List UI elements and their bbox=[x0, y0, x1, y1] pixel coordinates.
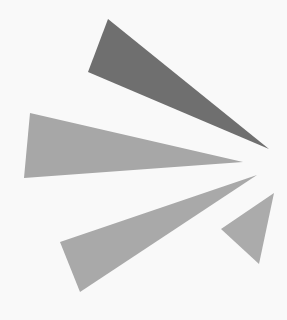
figure-canvas bbox=[0, 0, 287, 320]
light-triangle-small-right bbox=[221, 193, 274, 264]
dark-triangle-top bbox=[88, 19, 269, 149]
sunburst-triangles-graphic bbox=[0, 0, 287, 320]
